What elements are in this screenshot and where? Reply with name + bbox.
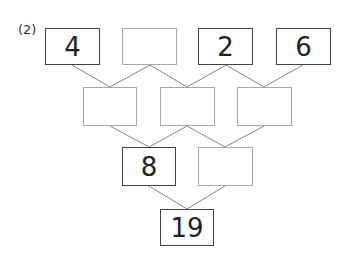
second-row-box-3[interactable] xyxy=(237,87,292,126)
box-value: 8 xyxy=(141,152,158,182)
box-value: 2 xyxy=(217,32,234,62)
top-box-4[interactable]: 6 xyxy=(276,28,331,65)
top-box-3[interactable]: 2 xyxy=(198,28,253,65)
box-value: 4 xyxy=(64,32,81,62)
top-box-2[interactable] xyxy=(122,28,177,65)
bottom-box[interactable]: 19 xyxy=(160,209,214,246)
box-value: 19 xyxy=(170,213,203,243)
box-value: 6 xyxy=(295,32,312,62)
top-box-1[interactable]: 4 xyxy=(45,28,100,65)
second-row-box-2[interactable] xyxy=(160,87,215,126)
third-row-box-1[interactable]: 8 xyxy=(122,147,176,186)
third-row-box-2[interactable] xyxy=(198,147,253,186)
second-row-box-1[interactable] xyxy=(83,87,137,126)
